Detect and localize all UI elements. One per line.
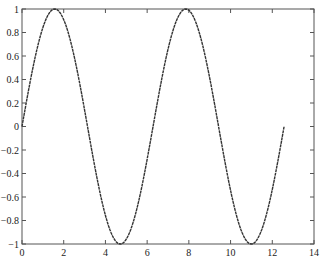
x-tick-label: 8	[186, 247, 191, 258]
y-tick-label: −1	[8, 239, 19, 250]
y-tick-label: 0	[14, 121, 19, 132]
y-tick-label: −0.8	[1, 215, 19, 226]
y-tick-label: −0.2	[1, 145, 19, 156]
plot-border	[22, 9, 314, 244]
x-tick-label: 2	[61, 247, 66, 258]
y-tick-label: −0.6	[1, 192, 19, 203]
x-tick-label: 6	[145, 247, 150, 258]
line-chart: −1−0.8−0.6−0.4−0.200.20.40.60.81 0246810…	[0, 0, 321, 262]
y-tick-label: 1	[14, 4, 19, 15]
sine-curve	[22, 9, 284, 244]
x-tick-label: 0	[20, 247, 25, 258]
y-tick-label: 0.8	[7, 27, 20, 38]
y-tick-label: 0.6	[7, 51, 20, 62]
y-tick-label: 0.2	[7, 98, 20, 109]
x-tick-label: 10	[226, 247, 236, 258]
x-tick-label: 12	[267, 247, 277, 258]
y-tick-label: 0.4	[7, 74, 20, 85]
x-tick-label: 4	[103, 247, 108, 258]
y-tick-label: −0.4	[1, 168, 19, 179]
plot-frame	[22, 9, 314, 244]
x-tick-label: 14	[309, 247, 319, 258]
